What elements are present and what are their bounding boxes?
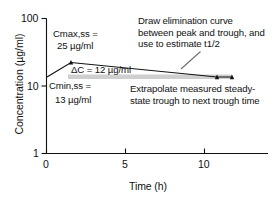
y-axis-title: Concentration (µg/ml) [13, 33, 25, 134]
cmax-label-line1: Cmax,ss = [53, 28, 98, 39]
y-tick-label-1: 1 [33, 147, 39, 159]
elimination-note-line1: Draw elimination curve [138, 15, 233, 26]
x-tick-label-10: 10 [198, 158, 209, 170]
cmin-label-line1: Cmin,ss = [49, 80, 91, 91]
delta-c-label: ΔC = 12 µg/ml [71, 64, 131, 75]
x-axis-title: Time (h) [129, 180, 167, 192]
y-axis-title-wrap: Concentration (µg/ml) [9, 14, 27, 154]
y-tick-label-10: 10 [27, 80, 38, 92]
cmin-reference-band [68, 75, 232, 80]
x-tick-label-0: 0 [43, 158, 49, 170]
elimination-note-line2: between peak and trough, and [138, 27, 265, 38]
pk-concentration-time-chart: 100 10 1 0 5 10 Concentration (µg/ml) Ti… [0, 0, 279, 199]
elimination-leader-line [181, 52, 201, 70]
elimination-note-line3: use to estimate t1/2 [138, 38, 220, 49]
cmax-label-line2: 25 µg/ml [57, 40, 93, 51]
extrapolate-note-line1: Extrapolate measured steady- [130, 83, 255, 94]
x-tick-label-5: 5 [122, 158, 128, 170]
cmin-label-line2: 13 µg/ml [55, 94, 91, 105]
extrapolate-note-line2: state trough to next trough time [130, 95, 260, 106]
